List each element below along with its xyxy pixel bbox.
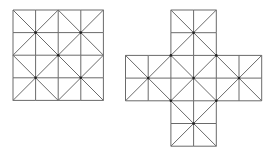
diagram-canvas [0,0,273,157]
vertex-dot [192,122,195,125]
vertex-dot [215,54,218,57]
vertex-dot [238,77,241,80]
square-grid-shape [13,10,103,100]
vertex-dot [147,77,150,80]
vertex-dot [170,54,173,57]
vertex-dot [170,100,173,103]
cross-grid-shape [126,10,262,146]
vertex-dot [215,100,218,103]
vertex-dot [192,77,195,80]
vertex-dot [57,54,60,57]
vertex-dot [80,31,83,34]
vertex-dot [192,31,195,34]
grid-figure [0,0,273,157]
vertex-dot [80,77,83,80]
vertex-dot [34,77,37,80]
vertex-dot [34,31,37,34]
